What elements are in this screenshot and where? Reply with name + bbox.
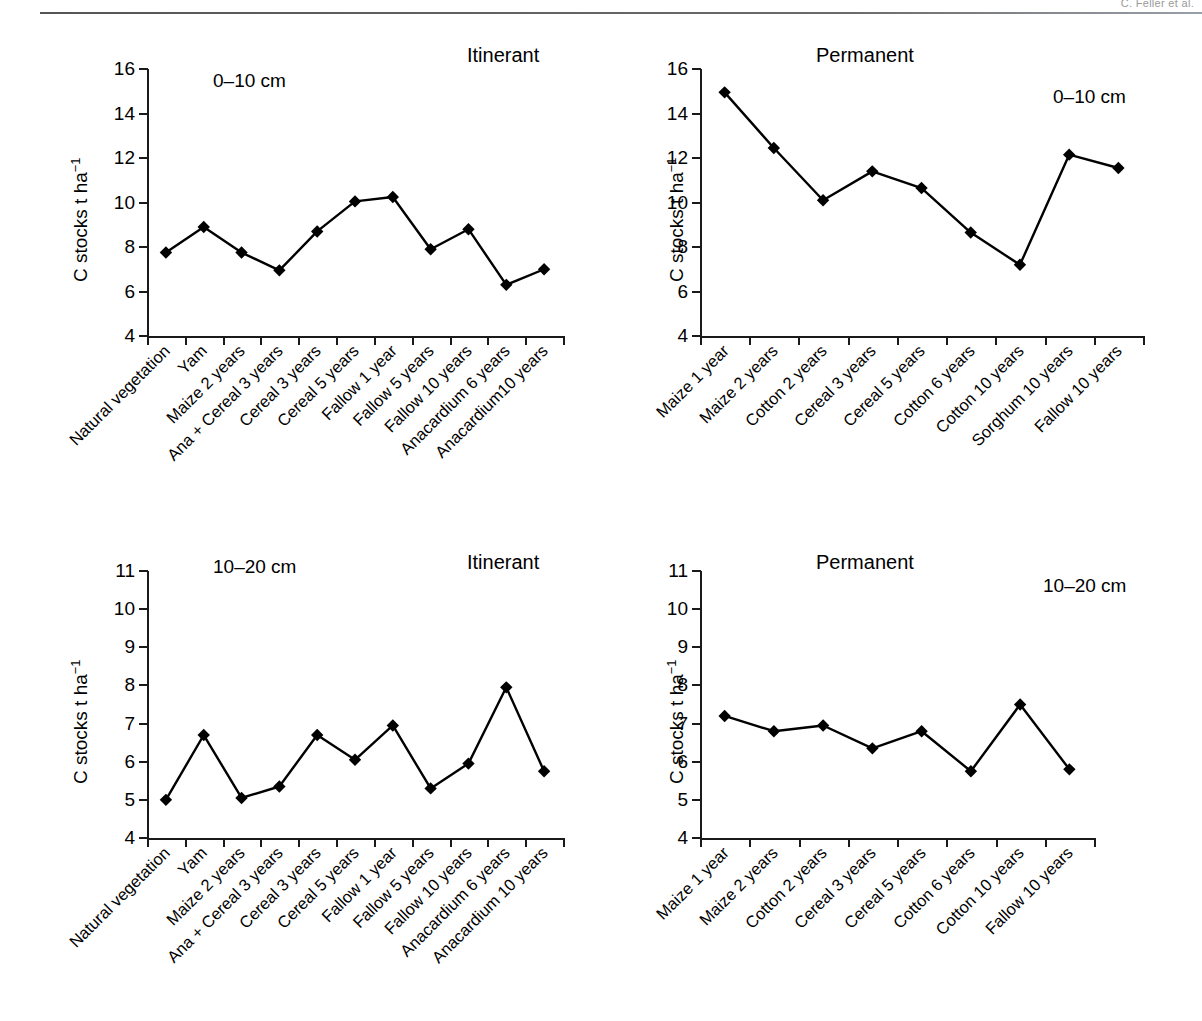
data-point-marker: [817, 719, 829, 731]
data-point-marker: [718, 710, 730, 722]
data-point-marker: [866, 742, 878, 754]
series-line: [0, 0, 1202, 1021]
series-polyline: [725, 705, 1070, 772]
data-point-marker: [768, 725, 780, 737]
